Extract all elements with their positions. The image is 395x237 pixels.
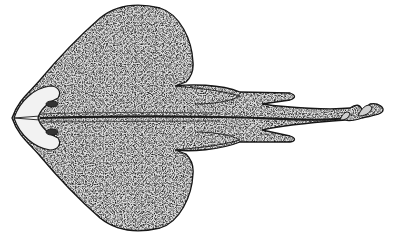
illustration-canvas	[0, 0, 395, 237]
ray-illustration	[0, 0, 395, 237]
eye-icon	[46, 101, 58, 107]
eye-icon	[46, 129, 58, 135]
